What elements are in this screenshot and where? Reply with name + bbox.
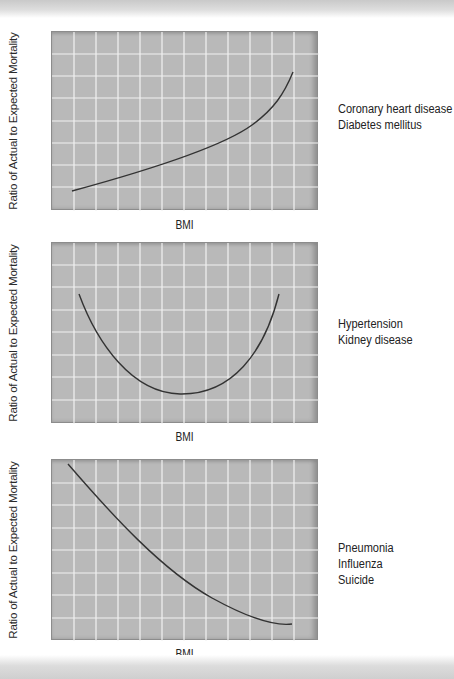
data-curve [79,294,279,394]
legend-item: Coronary heart disease [338,101,452,117]
y-axis-label-text: Ratio of Actual to Expected Mortality [7,244,19,421]
plot-area [51,459,318,640]
grid-lines [52,32,319,211]
legend: Pneumonia Influenza Suicide [338,540,394,588]
legend-item: Influenza [338,556,394,572]
top-shade-band [0,0,454,18]
line-chart [52,460,319,641]
data-curve [68,464,292,624]
x-axis-label: BMI [71,430,298,444]
y-axis-label: Ratio of Actual to Expected Mortality [6,242,20,423]
plot-area [51,31,318,210]
line-chart [52,243,319,424]
data-curve [72,72,293,191]
bottom-shade-band [0,655,454,679]
legend: Coronary heart disease Diabetes mellitus [338,101,452,133]
grid-lines [52,460,319,641]
y-axis-label-text: Ratio of Actual to Expected Mortality [7,32,19,209]
plot-area [51,242,318,423]
grid-lines [52,243,319,424]
legend-item: Hypertension [338,316,413,332]
legend-item: Pneumonia [338,540,394,556]
y-axis-label-text: Ratio of Actual to Expected Mortality [7,461,19,638]
x-axis-label: BMI [71,218,298,232]
legend-item: Diabetes mellitus [338,117,452,133]
line-chart [52,32,319,211]
legend-item: Kidney disease [338,332,413,348]
y-axis-label: Ratio of Actual to Expected Mortality [6,459,20,640]
legend: Hypertension Kidney disease [338,316,413,348]
legend-item: Suicide [338,572,394,588]
y-axis-label: Ratio of Actual to Expected Mortality [6,31,20,210]
